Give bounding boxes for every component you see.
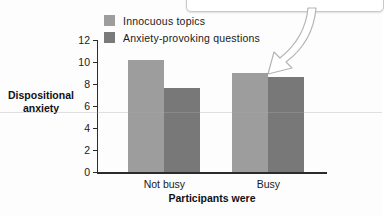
bar-not-busy-series-1: [164, 88, 200, 172]
legend-label-series-0: Innocuous topics: [123, 15, 205, 27]
bar-busy-series-1: [268, 77, 304, 172]
bar-not-busy-series-0: [128, 60, 164, 172]
x-axis-line: [97, 172, 327, 174]
y-axis-tick-mark: [93, 172, 97, 173]
legend-item-innocuous-topics: Innocuous topics: [104, 13, 260, 28]
y-axis-title-line-1: Dispositional: [8, 89, 74, 101]
x-axis-category-label: Not busy: [144, 178, 185, 190]
y-axis-tick-label: 4: [84, 122, 90, 134]
y-axis-tick-label: 12: [78, 34, 90, 46]
y-axis-tick-mark: [93, 40, 97, 41]
legend-swatch-icon-series-0: [104, 15, 115, 26]
y-axis-tick-label: 10: [78, 56, 90, 68]
y-axis-tick-label: 6: [84, 100, 90, 112]
bars-container: [98, 40, 326, 172]
y-axis-tick-mark: [93, 128, 97, 129]
x-axis-title: Participants were: [97, 192, 327, 204]
y-axis-tick-mark: [93, 150, 97, 151]
y-axis-tick-mark: [93, 84, 97, 85]
x-axis-category-label: Busy: [257, 178, 280, 190]
y-axis-tick-label: 2: [84, 144, 90, 156]
bar-busy-series-0: [232, 73, 268, 172]
scan-artifact-line: [0, 112, 382, 113]
y-axis-tick-mark: [93, 106, 97, 107]
y-axis-tick-label: 8: [84, 78, 90, 90]
y-axis-tick-mark: [93, 62, 97, 63]
y-axis-tick-label: 0: [84, 166, 90, 178]
plot-area: 024681012 Not busyBusy: [97, 40, 327, 172]
